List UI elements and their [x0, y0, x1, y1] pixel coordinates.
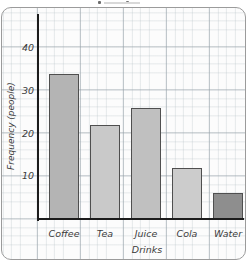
- chart-panel: 10203040 CoffeeTeaJuiceColaWater Drinks …: [1, 7, 246, 260]
- bar-tea: [90, 125, 120, 219]
- x-category-water: Water: [206, 228, 246, 239]
- x-category-coffee: Coffee: [42, 228, 86, 239]
- x-category-cola: Cola: [165, 228, 209, 239]
- bar-juice: [131, 108, 161, 219]
- y-tick-10: 10: [14, 170, 34, 181]
- bar-cola: [172, 168, 202, 219]
- cropped-title-fragment: [98, 0, 148, 5]
- y-axis-line: [37, 14, 40, 221]
- x-category-juice: Juice: [124, 228, 168, 239]
- bar-coffee: [49, 74, 79, 219]
- x-axis-line: [37, 218, 244, 221]
- bar-water: [213, 193, 243, 219]
- y-tick-40: 40: [14, 42, 34, 53]
- y-tick-30: 30: [14, 85, 34, 96]
- y-tick-20: 20: [14, 128, 34, 139]
- x-axis-title: Drinks: [125, 244, 169, 255]
- x-category-tea: Tea: [83, 228, 127, 239]
- y-axis-title: Frequency (people): [6, 82, 16, 170]
